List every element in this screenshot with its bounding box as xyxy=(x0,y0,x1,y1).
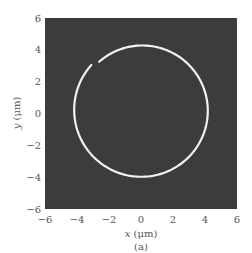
y-axis-label: y (μm) xyxy=(11,97,22,131)
x-tick: 0 xyxy=(138,214,144,225)
y-axis-unit: (μm) xyxy=(11,97,22,124)
x-tick: 6 xyxy=(234,214,240,225)
x-axis-ticks: −6 −4 −2 0 2 4 6 xyxy=(38,214,241,225)
x-tick: 4 xyxy=(202,214,208,225)
y-tick: −2 xyxy=(26,140,41,151)
x-axis-label: x (μm) xyxy=(125,228,158,239)
figure-caption: (a) xyxy=(134,241,148,252)
y-tick: 4 xyxy=(35,44,41,55)
y-axis-ticks: −6 −4 −2 0 2 4 6 xyxy=(26,13,41,215)
x-tick: −2 xyxy=(102,214,117,225)
x-axis-unit: (μm) xyxy=(130,228,157,239)
x-tick: −6 xyxy=(38,214,53,225)
x-tick: −4 xyxy=(70,214,85,225)
x-tick: 2 xyxy=(170,214,176,225)
y-tick: −6 xyxy=(26,204,41,215)
y-tick: 2 xyxy=(35,76,41,87)
y-tick: 0 xyxy=(35,108,41,119)
y-tick: 6 xyxy=(35,13,41,24)
chart-figure: −6 −4 −2 0 2 4 6 −6 −4 −2 0 2 4 6 x (μm)… xyxy=(0,0,252,253)
y-tick: −4 xyxy=(26,172,41,183)
